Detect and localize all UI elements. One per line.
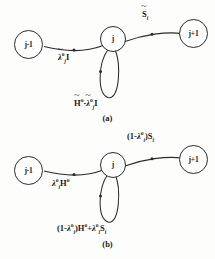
- caption-a: (a): [0, 113, 215, 123]
- edge-right-a: [125, 33, 182, 42]
- panel-b: j-1 j j+1 λoiHo (1-λoi)Si (1-λoi)Ho+λoiS…: [0, 126, 215, 259]
- figure-canvas: j-1 j j+1 λojI Si Ho-λojI (a): [0, 0, 215, 259]
- edge-dot-selfloop-a: [99, 70, 102, 73]
- lambda-symbol: λ: [58, 53, 62, 62]
- node-b-left[interactable]: j-1: [14, 156, 43, 185]
- edge-dot-selfloop-b: [99, 195, 102, 198]
- caption-b: (b): [0, 239, 215, 249]
- node-b-right[interactable]: j+1: [179, 145, 208, 174]
- identity-symbol: I: [66, 52, 69, 62]
- h-symbol: H: [74, 99, 81, 108]
- open-paren-b3: (1-: [57, 223, 67, 233]
- edge-dot-right-b: [151, 157, 154, 160]
- lambda-superscript-b3: o: [71, 222, 74, 228]
- node-a-right[interactable]: j+1: [179, 19, 208, 48]
- h-superscript-b1: o: [67, 177, 70, 183]
- node-b-center-label: j: [112, 161, 114, 169]
- s-symbol: S: [142, 10, 147, 19]
- node-a-center[interactable]: j: [100, 26, 126, 52]
- edge-label-b-left: λoiHo: [52, 179, 69, 188]
- node-a-left-label: j-1: [24, 41, 32, 49]
- edge-label-a-right: Si: [142, 10, 148, 19]
- lambda-superscript-b4: o: [96, 222, 99, 228]
- s-subscript-b3: i: [105, 229, 107, 235]
- edge-dot-right-a: [151, 33, 154, 36]
- lambda-superscript-b1: o: [56, 177, 59, 183]
- node-b-center[interactable]: j: [100, 152, 126, 178]
- edge-label-a-left: λojI: [58, 53, 69, 62]
- edge-selfloop-a: [100, 50, 118, 98]
- edge-label-b-right: (1-λoi)Si: [127, 132, 154, 141]
- node-a-left[interactable]: j-1: [14, 30, 43, 59]
- lambda-symbol-2: λ: [86, 99, 90, 108]
- edge-right-b: [125, 157, 182, 166]
- node-b-right-label: j+1: [189, 156, 199, 164]
- h-symbol-b1: H: [60, 178, 67, 188]
- open-paren-b2: (1-: [127, 131, 137, 141]
- edge-selfloop-b: [100, 174, 118, 222]
- edge-dot-left-a: [73, 49, 76, 52]
- panel-a: j-1 j j+1 λojI Si Ho-λojI (a): [0, 0, 215, 130]
- node-a-center-label: j: [112, 35, 114, 43]
- lambda-superscript-b2: o: [141, 130, 144, 136]
- identity-symbol-2: I: [94, 98, 97, 108]
- node-a-right-label: j+1: [189, 30, 199, 38]
- node-b-left-label: j-1: [24, 167, 32, 175]
- edge-dot-left-b: [73, 173, 76, 176]
- s-subscript-b2: i: [153, 137, 155, 143]
- edge-label-a-selfloop: Ho-λojI: [74, 99, 98, 108]
- edge-label-b-selfloop: (1-λoi)Ho+λoiSi: [57, 224, 106, 233]
